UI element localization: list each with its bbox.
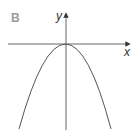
x-axis-label: x — [123, 45, 131, 59]
parabola-curve — [19, 44, 111, 129]
parabola-graph: y x — [0, 0, 139, 136]
y-axis-label: y — [55, 9, 63, 23]
